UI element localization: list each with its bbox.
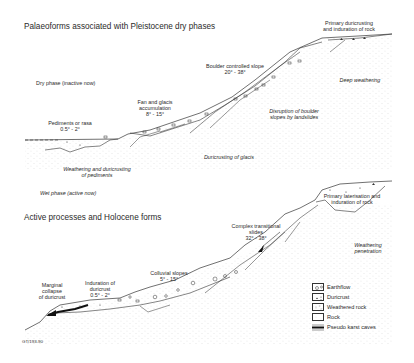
bottom-panel-title: Active processes and Holocene forms <box>24 213 161 222</box>
lateris-text-2: induration of rock <box>316 199 388 205</box>
deep-weathering-label: Deep weathering <box>330 77 390 83</box>
weathering-penetration-label: Weathering penetration <box>348 242 388 254</box>
glacis-label: Duricrusting of glacis <box>196 154 262 160</box>
dry-phase-label: Dry phase (inactive now) <box>36 80 95 86</box>
weathered-rock-swatch-icon <box>312 303 324 311</box>
induration-angle: 0.5° - 2° <box>80 292 120 298</box>
complex-slides-label: Complex transitional slides 32° - 38° <box>226 223 286 242</box>
fan-angle: 8° - 15° <box>130 111 180 117</box>
boulder-label: Boulder controlled slope 20° - 38° <box>200 63 270 75</box>
legend-item-earthflow: Earthflow <box>312 282 376 292</box>
fan-label: Fan and glacis accumulation 8° - 15° <box>130 99 180 118</box>
legend-label: Rock <box>327 314 340 320</box>
earthflow-swatch-icon <box>312 283 324 291</box>
top-panel-title: Palaeoforms associated with Pleistocene … <box>24 22 215 31</box>
colluvial-angle: 5° - 15° <box>146 276 192 282</box>
wet-phase-label: Wet phase (active now) <box>40 190 96 196</box>
primary-duricrusting-label: Primary duricrusting and induration of r… <box>314 20 384 32</box>
rock-swatch-icon <box>312 313 324 321</box>
top-profile <box>25 34 392 170</box>
induration-label: Induration of duricrust 0.5° - 2° <box>80 280 120 299</box>
legend-item-pseudo-karst-caves: Pseudo karst caves <box>312 322 376 332</box>
penetration-text-2: penetration <box>348 248 388 254</box>
figure-code: GT/193-90 <box>22 339 43 344</box>
weathering-pediments-label: Weathering and duricrusting of pediments <box>58 166 136 178</box>
boulder-angle: 20° - 38° <box>200 69 270 75</box>
legend-label: Weathered rock <box>327 304 366 310</box>
colluvial-label: Colluvial slopes 5° - 15° <box>146 270 192 282</box>
legend-item-duricrust: Duricrust <box>312 292 376 302</box>
marginal-collapse-label: Marginal collapse of duricrust <box>34 282 70 301</box>
weathering-text-2: of pediments <box>58 172 136 178</box>
legend-label: Pseudo karst caves <box>327 324 376 330</box>
legend-item-rock: Rock <box>312 312 376 322</box>
legend-label: Earthflow <box>327 284 350 290</box>
marginal-text-3: of duricrust <box>34 294 70 300</box>
disruption-text-2: slopes by landslides <box>262 114 326 120</box>
laterisation-label: Primary laterisation and induration of r… <box>316 193 388 205</box>
legend: Earthflow Duricrust Weathered rock Rock … <box>312 282 376 332</box>
pseudo-karst-caves-swatch-icon <box>312 323 324 331</box>
disruption-label: Disruption of boulder slopes by landslid… <box>262 108 326 120</box>
legend-item-weathered-rock: Weathered rock <box>312 302 376 312</box>
legend-label: Duricrust <box>327 294 349 300</box>
primary-text-2: and induration of rock <box>314 26 384 32</box>
duricrust-swatch-icon <box>312 293 324 301</box>
pediments-label: Pediments or rasa 0.5° - 2° <box>44 120 96 132</box>
complex-angle: 32° - 38° <box>226 235 286 241</box>
pediments-angle: 0.5° - 2° <box>44 126 96 132</box>
